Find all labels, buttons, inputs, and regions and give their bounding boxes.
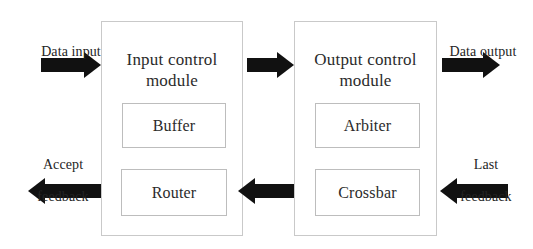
router-box: Router (121, 169, 227, 216)
output-control-module-title: Output control module (295, 49, 436, 91)
input-to-output-arrow-head (277, 52, 294, 78)
input-to-output-arrow-shaft (247, 58, 278, 72)
buffer-label: Buffer (153, 116, 196, 135)
output-to-input-arrow-shaft (254, 184, 294, 198)
data-output-label-line1: Data output (437, 44, 529, 60)
data-input-label-line1: Data input (33, 44, 109, 60)
output-to-input-arrow (238, 178, 294, 204)
input-control-module-title-line1: Input control (102, 49, 242, 70)
arbiter-box: Arbiter (315, 103, 420, 148)
router-label: Router (152, 183, 197, 202)
last-feedback-label-line2: feedback (446, 189, 526, 205)
output-control-module-title-line1: Output control (295, 49, 436, 70)
accept-feedback-label: Accept feedback (24, 141, 102, 221)
output-to-input-arrow-head (238, 178, 255, 204)
input-control-module-title-line2: module (102, 70, 242, 91)
crossbar-label: Crossbar (338, 183, 396, 202)
last-feedback-label: Last feedback (446, 141, 526, 221)
accept-feedback-label-line1: Accept (24, 157, 102, 173)
accept-feedback-label-line2: feedback (24, 189, 102, 205)
output-control-module-title-line2: module (295, 70, 436, 91)
crossbar-box: Crossbar (315, 169, 420, 216)
arbiter-label: Arbiter (344, 116, 392, 135)
input-to-output-arrow (247, 52, 294, 78)
data-input-label: Data input (33, 28, 109, 76)
buffer-box: Buffer (122, 103, 226, 148)
last-feedback-label-line1: Last (446, 157, 526, 173)
input-control-module-title: Input control module (102, 49, 242, 91)
data-output-label: Data output (437, 28, 529, 76)
block-diagram: Input control module Buffer Router Outpu… (0, 0, 533, 249)
